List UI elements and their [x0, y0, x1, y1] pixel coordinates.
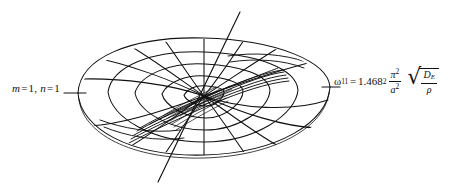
- frequency-formula: ω11=1.4682 π2 a2 √ DE ρ: [334, 68, 439, 95]
- radical-body: DE ρ: [419, 68, 439, 94]
- mode-label-m-equals: =: [21, 82, 27, 94]
- formula-coefficient-exponent: 2: [383, 78, 387, 86]
- mode-label: m=1,n=1: [12, 82, 60, 94]
- fraction-numerator: π2: [389, 68, 402, 82]
- square-root-group: √ DE ρ: [407, 68, 439, 94]
- elliptical-plate-mode-figure: [0, 0, 454, 191]
- mode-label-separator: ,: [34, 82, 37, 94]
- fraction-denominator: a2: [389, 82, 402, 95]
- formula-equals: =: [350, 76, 356, 87]
- mesh-radial-8: [90, 60, 320, 126]
- pi-exponent: 2: [396, 67, 400, 76]
- formula-coefficient: 1.468: [358, 76, 383, 87]
- mesh-radial-1: [82, 79, 328, 108]
- pi-over-a-squared-fraction: π2 a2: [389, 68, 402, 95]
- radical-numerator: DE: [421, 70, 437, 83]
- elliptical-plate-mode-surface: [64, 12, 340, 182]
- mode-label-n-symbol: n: [40, 82, 46, 94]
- mode-label-n-value: 1: [54, 82, 60, 94]
- omega-subscript: 11: [341, 78, 348, 86]
- radical-denominator: ρ: [425, 84, 434, 95]
- mode-label-n-equals: =: [47, 82, 53, 94]
- omega-symbol: ω: [334, 76, 341, 87]
- de-over-rho-fraction: DE ρ: [421, 70, 437, 94]
- mode-label-m-symbol: m: [12, 82, 20, 94]
- flexural-rigidity-symbol: D: [423, 69, 430, 80]
- flexural-rigidity-subscript: E: [431, 74, 435, 82]
- a-exponent: 2: [396, 82, 400, 91]
